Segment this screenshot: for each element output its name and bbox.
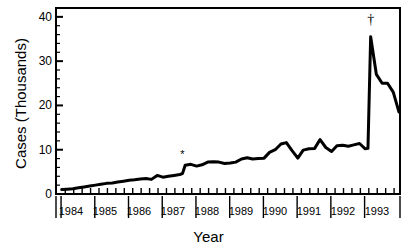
x-axis-year-separators	[56, 196, 400, 218]
chart-figure: Cases (Thousands) Year 40 30 20 10 0 198…	[0, 0, 417, 252]
plot-frame	[56, 8, 400, 194]
y-axis-minor-ticks	[56, 8, 60, 185]
dagger-annotation: †	[367, 12, 374, 27]
data-series-line	[62, 37, 399, 190]
asterisk-annotation: *	[180, 148, 185, 160]
chart-svg: * †	[0, 0, 417, 252]
